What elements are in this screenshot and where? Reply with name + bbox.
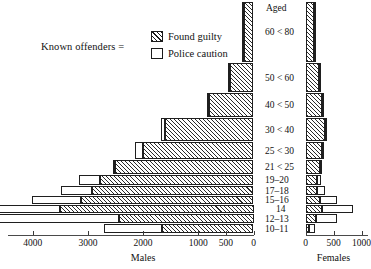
axis-tick xyxy=(306,231,307,235)
bar-segment-found-guilty xyxy=(306,186,318,195)
bar-females-17-18 xyxy=(306,186,325,195)
males-axis-title: Males xyxy=(131,252,155,263)
bar-segment-found-guilty xyxy=(306,160,321,174)
bar-males-50-60 xyxy=(228,63,253,92)
bar-segment-police-caution xyxy=(104,224,162,233)
bar-segment-found-guilty xyxy=(306,118,325,141)
age-label: 60 < 80 xyxy=(265,27,294,37)
axis-tick xyxy=(143,231,144,235)
axis-tick-label: 0 xyxy=(251,238,256,248)
axis-tick-label: 4000 xyxy=(23,238,42,248)
axis-tick xyxy=(88,231,89,235)
bar-females-50-60 xyxy=(306,63,321,92)
bar-segment-found-guilty xyxy=(306,2,314,62)
bar-segment-found-guilty xyxy=(92,186,253,195)
bar-segment-police-caution xyxy=(316,214,337,223)
bar-segment-police-caution xyxy=(314,2,316,62)
bar-females-60-80 xyxy=(306,2,316,62)
bar-segment-police-caution xyxy=(317,186,324,195)
chart-root: Known offenders = Found guilty Police ca… xyxy=(0,0,371,269)
bar-males-30-40 xyxy=(161,118,254,141)
bar-segment-police-caution xyxy=(322,205,353,213)
males-axis-line xyxy=(8,235,254,236)
age-label: 12–13 xyxy=(265,214,289,224)
age-label: 19–20 xyxy=(265,175,289,185)
bar-segment-found-guilty xyxy=(143,142,253,159)
bar-males-17-18 xyxy=(61,186,253,195)
axis-tick xyxy=(226,231,227,235)
bar-females-40-50 xyxy=(306,93,324,117)
bar-males-21-25 xyxy=(113,160,254,174)
plot-area: Aged 60 < 8050 < 6040 < 5030 < 4025 < 30… xyxy=(0,0,371,269)
bar-males-19-20 xyxy=(79,175,254,185)
bar-females-19-20 xyxy=(306,175,321,185)
bar-females-14 xyxy=(306,205,354,213)
bar-males-10-11 xyxy=(104,224,254,233)
bar-females-10-11 xyxy=(306,224,316,233)
bar-segment-found-guilty xyxy=(306,63,319,92)
bar-segment-police-caution xyxy=(320,196,338,204)
bar-segment-found-guilty xyxy=(306,214,317,223)
bar-segment-found-guilty xyxy=(306,142,322,159)
bar-segment-found-guilty xyxy=(306,205,322,213)
axis-tick xyxy=(362,231,363,235)
bar-segment-police-caution xyxy=(0,214,119,223)
axis-tick-label: 3000 xyxy=(78,238,97,248)
axis-tick-label: 2000 xyxy=(134,238,153,248)
bar-segment-police-caution xyxy=(0,205,60,213)
bar-segment-found-guilty xyxy=(60,205,253,213)
bar-males-40-50 xyxy=(207,93,253,117)
aged-column-header: Aged xyxy=(266,3,287,13)
age-label: 50 < 60 xyxy=(265,73,294,83)
bar-segment-police-caution xyxy=(325,118,327,141)
age-label: 10–11 xyxy=(265,224,288,234)
axis-tick-label: 1000 xyxy=(189,238,208,248)
bar-segment-found-guilty xyxy=(230,63,253,92)
bar-segment-found-guilty xyxy=(244,2,254,62)
bar-segment-found-guilty xyxy=(306,93,322,117)
bar-males-60-80 xyxy=(242,2,254,62)
axis-tick xyxy=(334,231,335,235)
bar-segment-found-guilty xyxy=(306,196,320,204)
bar-segment-found-guilty xyxy=(306,175,317,185)
bar-segment-police-caution xyxy=(61,186,92,195)
axis-tick xyxy=(33,231,34,235)
age-label: 30 < 40 xyxy=(265,125,294,135)
bar-segment-police-caution xyxy=(79,175,101,185)
bar-females-30-40 xyxy=(306,118,327,141)
bar-segment-found-guilty xyxy=(162,224,254,233)
bar-females-12-13 xyxy=(306,214,338,223)
bar-segment-found-guilty xyxy=(115,160,254,174)
age-label: 14 xyxy=(276,204,286,214)
bar-males-14 xyxy=(0,205,254,213)
bar-males-12-13 xyxy=(0,214,254,223)
bar-segment-police-caution xyxy=(320,160,322,174)
bar-females-15-16 xyxy=(306,196,338,204)
bar-segment-found-guilty xyxy=(209,93,253,117)
age-label: 17–18 xyxy=(265,186,289,196)
axis-tick-label: 0 xyxy=(303,238,308,248)
bar-segment-police-caution xyxy=(317,175,321,185)
axis-tick-label: 500 xyxy=(219,238,233,248)
bar-segment-police-caution xyxy=(319,63,321,92)
bar-segment-found-guilty xyxy=(119,214,254,223)
age-label: 25 < 30 xyxy=(265,146,294,156)
bar-segment-found-guilty xyxy=(81,196,253,204)
axis-tick xyxy=(198,231,199,235)
bar-segment-police-caution xyxy=(322,93,324,117)
bar-males-15-16 xyxy=(32,196,254,204)
bar-segment-police-caution xyxy=(309,224,315,233)
axis-tick xyxy=(254,231,255,235)
bar-segment-police-caution xyxy=(135,142,143,159)
bar-segment-found-guilty xyxy=(165,118,253,141)
females-axis-title: Females xyxy=(317,252,350,263)
bar-segment-found-guilty xyxy=(100,175,253,185)
axis-tick-label: 1000 xyxy=(352,238,371,248)
females-axis-line xyxy=(306,235,368,236)
age-label: 40 < 50 xyxy=(265,100,294,110)
bar-females-21-25 xyxy=(306,160,323,174)
bar-segment-police-caution xyxy=(32,196,82,204)
axis-tick-label: 500 xyxy=(326,238,340,248)
bar-females-25-30 xyxy=(306,142,324,159)
bar-segment-police-caution xyxy=(322,142,324,159)
